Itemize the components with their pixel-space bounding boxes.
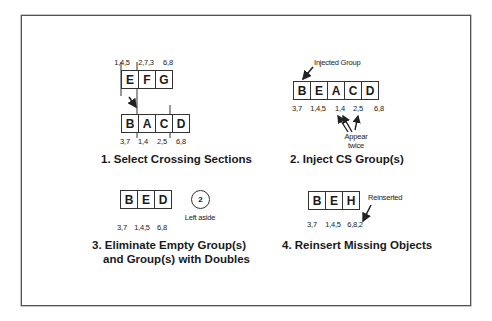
left-aside-label: Left aside bbox=[185, 213, 216, 222]
group-label: 2,5 bbox=[353, 104, 363, 113]
cell: H bbox=[342, 191, 360, 210]
cell: A bbox=[327, 81, 345, 100]
group-label: 6,8 bbox=[163, 58, 173, 67]
group-label: 6,8 bbox=[374, 104, 384, 113]
group-label: 1,4,5 bbox=[114, 58, 130, 67]
left-aside-circle: 2 bbox=[191, 190, 210, 209]
cell: B bbox=[308, 191, 326, 210]
group-label: 3,7 bbox=[292, 104, 302, 113]
group-label: 1,4,5 bbox=[134, 223, 150, 232]
group-label: 6,8 bbox=[176, 137, 186, 146]
group-label: 6,8 bbox=[157, 223, 167, 232]
group-label: 6,8,2 bbox=[347, 220, 363, 229]
group-label: 3,7 bbox=[307, 220, 317, 229]
cell: E bbox=[137, 190, 155, 209]
group-label: 1,4 bbox=[138, 137, 148, 146]
group-boxes: B E D bbox=[120, 190, 172, 209]
cell: D bbox=[172, 114, 190, 133]
cell: C bbox=[155, 114, 173, 133]
panel-title: 2. Inject CS Group(s) bbox=[290, 153, 404, 166]
cell: B bbox=[120, 190, 138, 209]
appear-twice-annotation: Appear bbox=[345, 132, 368, 141]
cell: G bbox=[155, 70, 173, 89]
cell: C bbox=[344, 81, 362, 100]
panel-title: and Group(s) with Doubles bbox=[103, 253, 250, 266]
group-label: 1,4,5 bbox=[310, 104, 326, 113]
group-boxes: B E H bbox=[308, 191, 360, 210]
group-label: 3,7 bbox=[120, 137, 130, 146]
group-label: 2,5 bbox=[157, 137, 167, 146]
group-boxes: B E A C D bbox=[293, 81, 379, 100]
cell: E bbox=[310, 81, 328, 100]
injected-group-annotation: Injected Group bbox=[314, 58, 360, 67]
reinserted-annotation: Reinserted bbox=[368, 193, 402, 202]
group-label: 3,7 bbox=[117, 223, 127, 232]
panel-title: 1. Select Crossing Sections bbox=[101, 153, 252, 166]
group-label: 1,4 bbox=[335, 104, 345, 113]
cell: D bbox=[361, 81, 379, 100]
cell: D bbox=[154, 190, 172, 209]
cell: B bbox=[121, 114, 139, 133]
cell: E bbox=[325, 191, 343, 210]
cell: E bbox=[121, 70, 139, 89]
cell: F bbox=[138, 70, 156, 89]
cell: B bbox=[293, 81, 311, 100]
group-label: 2,7,3 bbox=[138, 58, 154, 67]
bottom-group-boxes: B A C D bbox=[121, 114, 190, 133]
panel-title: 4. Reinsert Missing Objects bbox=[282, 239, 432, 252]
panel-title: 3. Eliminate Empty Group(s) bbox=[92, 239, 246, 252]
appear-twice-annotation: twice bbox=[348, 141, 364, 150]
group-label: 1,4,5 bbox=[325, 220, 341, 229]
cell: A bbox=[138, 114, 156, 133]
top-group-boxes: E F G bbox=[121, 70, 173, 89]
